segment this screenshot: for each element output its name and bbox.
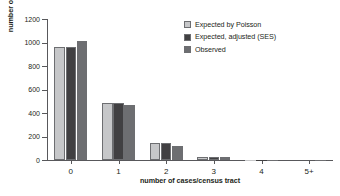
bar: [172, 146, 183, 160]
y-axis-tick: [42, 137, 47, 138]
x-axis-tick-label: 5+: [289, 167, 329, 176]
bar: [124, 105, 135, 160]
legend-swatch-icon: [184, 34, 191, 41]
y-axis-tick: [42, 160, 47, 161]
legend-swatch-icon: [184, 21, 191, 28]
x-axis-tick: [71, 160, 72, 164]
bar: [150, 143, 161, 160]
y-axis-tick: [42, 19, 47, 20]
x-axis-tick: [309, 160, 310, 164]
legend-swatch-icon: [184, 46, 191, 53]
y-axis-tick-label: 200: [0, 133, 40, 140]
bar-chart: number of census tracts number of cases/…: [0, 0, 340, 196]
y-axis-tick-label: 600: [0, 86, 40, 93]
bar: [113, 103, 124, 160]
x-axis-tick-label: 0: [51, 167, 91, 176]
y-axis-tick-label: 1200: [0, 16, 40, 23]
bar: [102, 103, 113, 160]
bar: [197, 157, 208, 160]
bar: [77, 41, 88, 160]
y-axis-tick: [42, 90, 47, 91]
x-axis-tick-label: 1: [99, 167, 139, 176]
legend-item: Expected, adjusted (SES): [184, 32, 314, 43]
bar: [209, 157, 220, 160]
bar: [220, 157, 231, 160]
y-axis-tick-label: 0: [0, 157, 40, 164]
y-axis-line: [47, 19, 48, 160]
x-axis-tick: [262, 160, 263, 164]
x-axis-tick-label: 4: [242, 167, 282, 176]
x-axis-tick-label: 2: [146, 167, 186, 176]
legend: Expected by PoissonExpected, adjusted (S…: [184, 19, 314, 57]
bar: [161, 143, 172, 160]
x-axis-tick: [119, 160, 120, 164]
y-axis-tick: [42, 113, 47, 114]
y-axis-tick: [42, 43, 47, 44]
legend-item-label: Expected by Poisson: [195, 21, 261, 29]
legend-item: Expected by Poisson: [184, 19, 314, 30]
y-axis-tick-label: 800: [0, 63, 40, 70]
x-axis-title: number of cases/census tract: [47, 176, 333, 185]
x-axis-tick-label: 3: [194, 167, 234, 176]
legend-item: Observed: [184, 44, 314, 55]
bar: [66, 47, 77, 160]
legend-item-label: Observed: [195, 46, 226, 54]
y-axis-tick-label: 400: [0, 110, 40, 117]
legend-item-label: Expected, adjusted (SES): [195, 33, 276, 41]
bar: [54, 47, 65, 160]
y-axis-tick-label: 1000: [0, 39, 40, 46]
x-axis-tick: [214, 160, 215, 164]
x-axis-line: [47, 160, 333, 161]
x-axis-tick: [166, 160, 167, 164]
y-axis-tick: [42, 66, 47, 67]
